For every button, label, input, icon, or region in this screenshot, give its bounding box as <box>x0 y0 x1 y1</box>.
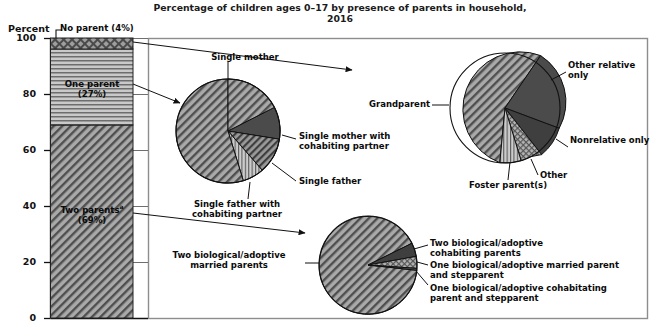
y-tick-100: 100 <box>4 32 36 43</box>
bar-label-one-parent: One parent (27%) <box>50 79 134 99</box>
bar-label-two-parents: Two parentsa (69%) <box>50 203 134 225</box>
pie-two-parents <box>305 216 428 314</box>
bar-segment-no-parent[interactable] <box>51 38 134 49</box>
y-tick-20: 20 <box>4 256 36 267</box>
label-one-bio-cohabiting-parent-stepparent: One biological/adoptive cohabitating par… <box>430 283 620 303</box>
label-other-relative-only: Other relative only <box>568 60 654 80</box>
label-foster-parents: Foster parent(s) <box>448 180 568 190</box>
bar-label-one-parent-value: (27%) <box>78 89 106 99</box>
label-two-bio-married-parents: Two biological/adoptive married parents <box>156 250 302 270</box>
y-tick-60: 60 <box>4 144 36 155</box>
bar-label-one-parent-text: One parent <box>65 79 120 89</box>
label-one-bio-married-parent-stepparent: One biological/adoptive married parent a… <box>430 260 630 280</box>
bar-label-no-parent: No parent (4%) <box>60 23 170 33</box>
label-nonrelative-only: Nonrelative only <box>570 135 650 145</box>
bar-label-two-parents-text: Two parents <box>60 205 119 215</box>
pie-one-parent <box>176 62 296 199</box>
label-single-father-cohabiting: Single father with cohabiting partner <box>176 199 298 219</box>
page-title: Percentage of children ages 0–17 by pres… <box>140 2 540 24</box>
bar-label-two-parents-value: (69%) <box>78 215 106 225</box>
pie-no-parent <box>432 52 568 180</box>
axis-tick-extensions <box>133 39 148 263</box>
chart-canvas: Percentage of children ages 0–17 by pres… <box>0 0 660 332</box>
label-grandparent: Grandparent <box>352 99 430 109</box>
label-other: Other <box>540 170 600 180</box>
label-single-mother: Single mother <box>190 52 300 62</box>
label-single-father: Single father <box>299 176 399 186</box>
y-tick-0: 0 <box>4 312 36 323</box>
bar-label-footnote-marker: a <box>120 203 124 210</box>
y-tick-40: 40 <box>4 200 36 211</box>
label-two-bio-cohabiting-parents: Two biological/adoptive cohabiting paren… <box>430 238 550 258</box>
label-single-mother-cohabiting: Single mother with cohabiting partner <box>299 131 417 151</box>
y-tick-80: 80 <box>4 88 36 99</box>
